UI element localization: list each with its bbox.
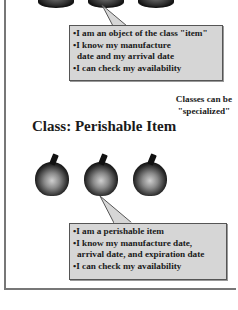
apple-icon — [133, 162, 167, 196]
note-line: Classes can be — [176, 93, 232, 105]
callout-line: •I can check my availability — [73, 261, 223, 273]
frame-bottom-border — [4, 288, 236, 290]
perishable-item-callout: •I am a perishable item •I know my manuf… — [69, 223, 227, 280]
callout-line: •I know my manufacture date, — [73, 238, 223, 250]
callout-pointer — [94, 194, 138, 224]
section-title: Class: Perishable Item — [32, 118, 176, 135]
apple-icon — [84, 162, 118, 196]
note-line: "specialized" — [176, 105, 232, 117]
callout-line: •I am a perishable item — [73, 226, 223, 238]
callout-line: date and my arrival date — [73, 51, 219, 63]
specialization-note: Classes can be "specialized" — [176, 93, 232, 117]
apple-icon — [138, 0, 174, 8]
apple-icon — [38, 0, 74, 8]
callout-line: •I am an object of the class "item" — [73, 28, 219, 40]
item-class-callout: •I am an object of the class "item" •I k… — [69, 25, 223, 81]
callout-line: arrival date, and expiration date — [73, 249, 223, 261]
callout-line: •I can check my availability — [73, 63, 219, 75]
apple-icon — [35, 162, 69, 196]
callout-line: •I know my manufacture — [73, 40, 219, 52]
frame-left-border — [4, 0, 6, 290]
